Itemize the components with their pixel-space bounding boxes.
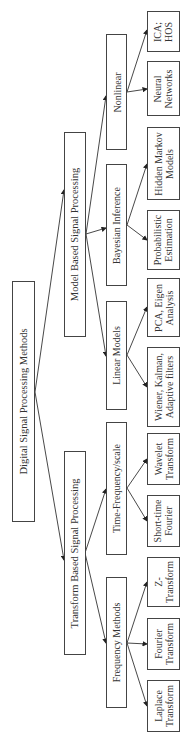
transform-based-label: Transform Based Signal Processing [70,478,81,628]
transform-based-node: Transform Based Signal Processing [64,451,86,655]
probabilistic-estimation-node: Probabilistic Estimation [147,210,180,270]
bayesian-node: Bayesian Inference [106,164,127,286]
short-time-fourier-node: Short-time Fourier [147,495,180,547]
pca-eigen-label: PCA, Eigen Analysis [153,284,175,332]
root-node: Digital Signal Processing Methods [12,281,35,522]
wavelet-transform-label: Wavelet Transform [153,438,175,480]
fourier-transform-label: Fourier Transform [153,623,175,665]
wiener-kalman-label: Wiener, Kalman, Adaptive filters [153,353,175,421]
linear-models-node: Linear Models [106,301,127,410]
probabilistic-estimation-label: Probabilistic Estimation [153,215,175,266]
neural-networks-label: Neural Networks [153,69,175,108]
pca-eigen-node: PCA, Eigen Analysis [147,278,180,337]
laplace-transform-node: Laplace Transform [147,680,180,732]
bayesian-label: Bayesian Inference [111,187,122,264]
fourier-transform-node: Fourier Transform [147,618,180,670]
neural-networks-node: Neural Networks [147,61,180,116]
wavelet-transform-node: Wavelet Transform [147,433,180,485]
hidden-markov-label: Hidden Markov Models [153,132,175,196]
laplace-transform-label: Laplace Transform [153,685,175,727]
nonlinear-label: Nonlinear [111,72,122,112]
frequency-methods-label: Frequency Methods [111,603,122,683]
nonlinear-node: Nonlinear [106,34,127,150]
time-frequency-label: Time-Frequency/scale [111,444,122,533]
ica-hos-node: ICA; HOS [147,11,180,52]
time-frequency-node: Time-Frequency/scale [106,422,127,555]
z-transform-node: Z- Transform [147,557,180,607]
model-based-label: Model Based Signal Processing [70,168,81,301]
root-label: Digital Signal Processing Methods [18,328,29,474]
wiener-kalman-node: Wiener, Kalman, Adaptive filters [147,347,180,427]
ica-hos-label: ICA; HOS [152,21,174,41]
short-time-fourier-label: Short-time Fourier [153,500,175,543]
model-based-node: Model Based Signal Processing [64,132,86,337]
linear-models-label: Linear Models [111,326,122,385]
z-transform-label: Z- Transform [153,561,175,603]
frequency-methods-node: Frequency Methods [106,577,127,708]
hidden-markov-node: Hidden Markov Models [147,127,180,200]
